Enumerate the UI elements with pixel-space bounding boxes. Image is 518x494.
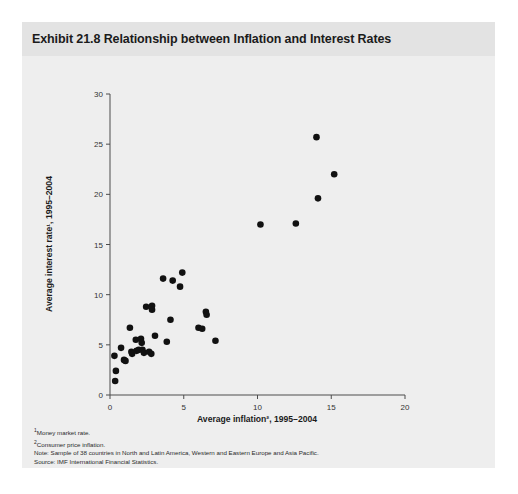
data-point (212, 338, 219, 345)
data-point (293, 220, 300, 227)
data-point (331, 171, 338, 178)
footnotes-block: 1Money market rate. 2Consumer price infl… (22, 426, 495, 467)
y-tick-label: 10 (94, 291, 103, 300)
footnote-text: Note: Sample of 38 countries in North an… (34, 449, 319, 456)
data-point (199, 325, 206, 332)
footnote-item: Source: IMF International Financial Stat… (34, 458, 495, 467)
data-point (179, 269, 186, 276)
scatter-chart: 05101520 051015202530 Average inflation²… (22, 56, 495, 426)
x-axis-title: Average inflation², 1995–2004 (197, 414, 317, 424)
axes (110, 94, 405, 395)
data-point (122, 358, 129, 365)
y-axis-title: Average interest rate¹, 1995–2004 (44, 176, 54, 312)
footnote-text: Consumer price inflation. (37, 441, 105, 448)
data-point (111, 353, 118, 360)
data-point (203, 311, 210, 318)
data-point (112, 378, 119, 385)
footnote-text: Source: IMF International Financial Stat… (34, 458, 158, 465)
data-point (163, 339, 170, 346)
data-point (177, 283, 184, 290)
footnote-text: Money market rate. (37, 429, 90, 436)
y-tick-label: 25 (94, 140, 103, 149)
data-point (118, 345, 125, 352)
data-points (111, 134, 337, 384)
data-point (257, 221, 264, 228)
y-tick-label: 15 (94, 241, 103, 250)
data-point (143, 303, 150, 310)
x-tick-label: 5 (182, 403, 187, 412)
y-axis-ticks: 051015202530 (94, 90, 110, 400)
y-tick-label: 5 (99, 341, 104, 350)
data-point (313, 134, 320, 141)
x-tick-label: 0 (108, 403, 113, 412)
data-point (127, 324, 134, 331)
x-tick-label: 10 (253, 403, 262, 412)
data-point (113, 368, 120, 375)
footnote-item: Note: Sample of 38 countries in North an… (34, 449, 495, 458)
x-axis-ticks: 05101520 (108, 395, 410, 412)
data-point (149, 306, 156, 313)
data-point (167, 316, 174, 323)
x-tick-label: 15 (327, 403, 336, 412)
figure-panel: Exhibit 21.8 Relationship between Inflat… (22, 22, 495, 468)
data-point (152, 333, 159, 340)
plot-area: 05101520 051015202530 Average inflation²… (22, 56, 495, 426)
data-point (138, 340, 145, 347)
chart-title-bar: Exhibit 21.8 Relationship between Inflat… (22, 22, 495, 56)
y-tick-label: 0 (99, 391, 104, 400)
y-tick-label: 30 (94, 90, 103, 99)
data-point (148, 351, 155, 358)
data-point (160, 275, 167, 282)
x-tick-label: 20 (401, 403, 410, 412)
data-point (315, 195, 322, 202)
footnote-item: 1Money market rate. (34, 426, 495, 438)
footnote-item: 2Consumer price inflation. (34, 438, 495, 450)
page-title: Exhibit 21.8 Relationship between Inflat… (22, 32, 391, 46)
data-point (169, 277, 176, 284)
y-tick-label: 20 (94, 190, 103, 199)
